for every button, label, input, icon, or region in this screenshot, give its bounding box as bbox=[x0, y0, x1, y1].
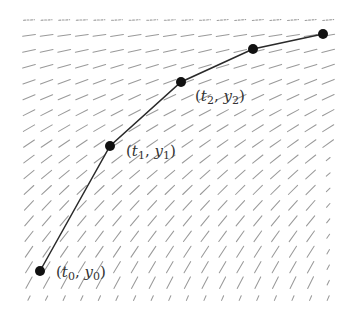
point-label-t0-y0: (t0, y0) bbox=[56, 263, 106, 283]
slope-segment bbox=[42, 186, 52, 195]
slope-segment bbox=[184, 246, 191, 257]
slope-segment bbox=[184, 231, 192, 241]
slope-segment bbox=[253, 140, 264, 147]
slope-segment bbox=[183, 201, 192, 211]
slope-segment bbox=[114, 262, 121, 273]
slope-segment bbox=[24, 155, 34, 163]
slope-segment bbox=[148, 201, 157, 211]
slope-segment bbox=[93, 80, 105, 84]
slope-segment bbox=[202, 277, 208, 289]
euler-point-4 bbox=[318, 29, 328, 39]
slope-segment bbox=[24, 186, 34, 195]
slope-segment bbox=[146, 110, 158, 116]
slope-segment bbox=[287, 64, 299, 68]
slope-segment bbox=[184, 262, 191, 273]
euler-point-0 bbox=[35, 266, 45, 276]
slope-segment bbox=[93, 50, 106, 53]
slope-segment bbox=[326, 188, 330, 192]
slope-segment bbox=[218, 201, 227, 211]
slope-segment bbox=[305, 95, 317, 101]
slope-segment bbox=[310, 296, 312, 301]
slope-segment bbox=[128, 65, 140, 69]
slope-segment bbox=[252, 110, 263, 116]
slope-segment bbox=[77, 170, 87, 178]
slope-segment bbox=[307, 262, 313, 273]
slope-segment bbox=[26, 277, 32, 288]
slope-segment bbox=[131, 231, 139, 241]
slope-segment bbox=[60, 201, 69, 210]
slope-segment bbox=[164, 50, 177, 53]
slope-segment bbox=[306, 201, 315, 211]
slope-segment bbox=[75, 50, 88, 53]
slope-segment bbox=[146, 35, 159, 37]
slope-segment bbox=[131, 246, 138, 257]
slope-segment bbox=[147, 170, 157, 178]
slope-segment bbox=[164, 80, 176, 85]
slope-segment bbox=[165, 185, 174, 194]
slope-segment bbox=[200, 170, 210, 179]
slope-segment bbox=[327, 234, 330, 238]
slope-segment bbox=[237, 262, 244, 273]
slope-segment bbox=[307, 246, 314, 257]
slope-segment bbox=[113, 231, 121, 241]
slope-segment bbox=[184, 277, 190, 289]
slope-segment bbox=[305, 125, 316, 132]
slope-segment bbox=[183, 170, 193, 179]
slope-segment bbox=[76, 95, 88, 100]
slope-segment bbox=[271, 201, 280, 211]
slope-segment bbox=[183, 185, 192, 194]
slope-segment bbox=[272, 231, 280, 242]
slope-segment bbox=[59, 170, 69, 178]
slope-segment bbox=[148, 231, 156, 241]
slope-segment bbox=[58, 50, 71, 53]
slope-segment bbox=[269, 64, 281, 68]
slope-segment bbox=[42, 216, 51, 226]
slope-segment bbox=[96, 231, 104, 241]
slope-segment bbox=[181, 65, 193, 69]
slope-segment bbox=[327, 280, 329, 285]
slope-segment bbox=[58, 35, 71, 37]
slope-segment bbox=[200, 185, 209, 194]
slope-segment bbox=[235, 170, 245, 179]
slope-segment bbox=[269, 79, 281, 84]
slope-segment bbox=[327, 204, 330, 208]
slope-segment bbox=[43, 231, 51, 241]
slope-segment bbox=[23, 95, 35, 100]
slope-segment bbox=[306, 185, 315, 194]
slope-segment bbox=[269, 34, 282, 36]
slope-segment bbox=[130, 201, 139, 210]
slope-segment bbox=[288, 140, 299, 148]
slope-segment bbox=[217, 20, 228, 21]
slope-segment bbox=[274, 296, 276, 301]
slope-segment bbox=[287, 95, 299, 101]
slope-segment bbox=[112, 186, 121, 195]
slope-segment bbox=[201, 216, 209, 226]
slope-segment bbox=[288, 170, 298, 179]
slope-segment bbox=[41, 80, 53, 84]
slope-segment bbox=[308, 277, 314, 289]
slope-segment bbox=[327, 265, 329, 269]
slope-segment bbox=[166, 246, 173, 257]
slope-segment bbox=[218, 170, 228, 179]
euler-points bbox=[35, 29, 328, 276]
slope-segment bbox=[24, 140, 35, 147]
slope-segment bbox=[134, 296, 136, 301]
slope-segment bbox=[76, 125, 87, 131]
slope-segment bbox=[306, 155, 316, 163]
slope-segment bbox=[41, 95, 53, 100]
slope-segment bbox=[25, 201, 34, 210]
slope-segment bbox=[58, 80, 70, 84]
slope-segment bbox=[272, 246, 279, 257]
slope-segment bbox=[130, 186, 139, 195]
slope-field bbox=[23, 20, 335, 301]
slope-segment bbox=[182, 95, 194, 100]
slope-segment bbox=[113, 201, 122, 210]
slope-segment bbox=[323, 125, 334, 132]
slope-segment bbox=[112, 20, 123, 21]
slope-segment bbox=[59, 140, 70, 147]
slope-segment bbox=[253, 170, 263, 179]
slope-segment bbox=[59, 125, 70, 131]
slope-segment bbox=[128, 50, 141, 53]
slope-segment bbox=[323, 20, 334, 21]
slope-segment bbox=[94, 140, 105, 147]
